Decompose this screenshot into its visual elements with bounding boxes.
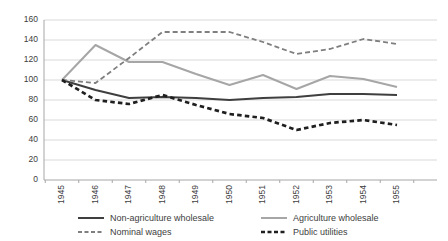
legend-label-agriculture-wholesale: Agriculture wholesale	[293, 213, 379, 223]
y-tick-label: 120	[24, 54, 38, 64]
x-tick-label: 1954	[358, 185, 368, 204]
legend-item-nominal-wages: Nominal wages	[78, 225, 261, 238]
x-tick-label: 1947	[123, 185, 133, 204]
x-tick-label: 1946	[90, 185, 100, 204]
x-tick-label: 1945	[56, 185, 66, 204]
y-tick-label: 140	[24, 34, 38, 44]
y-tick-label: 60	[29, 114, 39, 124]
legend-item-public-utilities: Public utilities	[261, 225, 379, 238]
line-chart: 0204060801001201401601945194619471948194…	[0, 0, 448, 241]
legend-label-public-utilities: Public utilities	[293, 227, 348, 237]
x-tick-label: 1948	[157, 185, 167, 204]
legend-swatch-public-utilities	[261, 229, 287, 235]
legend-swatch-non-agriculture-wholesale	[78, 215, 104, 221]
series-line-agriculture-wholesale	[62, 45, 397, 89]
legend-swatch-nominal-wages	[78, 229, 104, 235]
y-tick-label: 80	[29, 94, 39, 104]
legend-label-nominal-wages: Nominal wages	[110, 227, 172, 237]
y-tick-label: 0	[33, 174, 38, 184]
series-line-non-agriculture-wholesale	[62, 80, 397, 100]
y-tick-label: 20	[29, 154, 39, 164]
y-tick-label: 160	[24, 14, 38, 24]
legend-swatch-agriculture-wholesale	[261, 215, 287, 221]
legend-item-agriculture-wholesale: Agriculture wholesale	[261, 211, 379, 224]
x-tick-label: 1951	[257, 185, 267, 204]
x-tick-label: 1949	[190, 185, 200, 204]
x-tick-label: 1955	[391, 185, 401, 204]
x-tick-label: 1953	[324, 185, 334, 204]
x-tick-label: 1950	[224, 185, 234, 204]
y-tick-label: 40	[29, 134, 39, 144]
legend-item-non-agriculture-wholesale: Non-agriculture wholesale	[78, 211, 261, 224]
y-tick-label: 100	[24, 74, 38, 84]
plot-area: 0204060801001201401601945194619471948194…	[0, 0, 448, 212]
series-line-public-utilities	[62, 80, 397, 130]
legend-label-non-agriculture-wholesale: Non-agriculture wholesale	[110, 213, 214, 223]
x-tick-label: 1952	[291, 185, 301, 204]
legend: Non-agriculture wholesale Agriculture wh…	[78, 211, 379, 238]
